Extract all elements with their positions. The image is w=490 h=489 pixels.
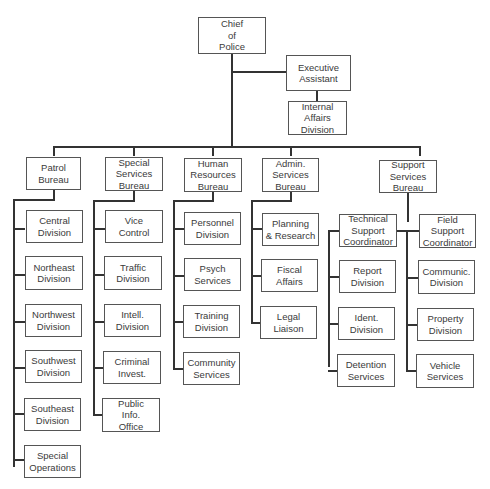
connector: [212, 146, 214, 156]
connector: [13, 321, 25, 323]
node-southeast-division: Southeast Division: [24, 398, 81, 431]
connector: [231, 71, 287, 73]
node-property-division: Property Division: [417, 308, 474, 341]
connector: [53, 146, 420, 148]
connector: [328, 230, 330, 367]
node-ident-division: Ident. Division: [338, 307, 395, 340]
connector: [406, 230, 408, 370]
node-patrol-bureau: Patrol Bureau: [26, 157, 81, 190]
node-central-division: Central Division: [26, 210, 83, 243]
node-vice-control: Vice Control: [105, 210, 163, 243]
connector: [173, 200, 214, 202]
connector: [231, 53, 233, 147]
connector: [53, 189, 55, 199]
node-special-operations: Special Operations: [24, 445, 81, 478]
connector: [396, 230, 420, 232]
connector: [133, 146, 135, 156]
connector: [13, 199, 15, 467]
connector: [419, 146, 421, 156]
node-planning-research: Planning & Research: [262, 213, 319, 246]
connector: [93, 200, 95, 415]
node-report-division: Report Division: [339, 260, 396, 293]
node-southwest-division: Southwest Division: [25, 350, 82, 383]
node-legal-liaison: Legal Liaison: [260, 306, 317, 339]
connector: [13, 228, 25, 230]
node-internal-affairs: Internal Affairs Division: [288, 101, 347, 135]
node-detention-services: Detention Services: [337, 354, 395, 387]
node-fiscal-affairs: Fiscal Affairs: [261, 259, 318, 292]
connector: [251, 200, 253, 323]
node-technical-support-coordinator: Technical Support Coordinator: [339, 214, 397, 247]
node-northeast-division: Northeast Division: [25, 256, 83, 290]
node-special-services-bureau: Special Services Bureau: [105, 157, 163, 191]
node-communic-division: Communic. Division: [418, 260, 475, 294]
connector: [133, 190, 135, 200]
node-field-support-coordinator: Field Support Coordinator: [419, 214, 476, 248]
connector: [406, 277, 418, 279]
node-personnel-division: Personnel Division: [184, 212, 241, 245]
node-human-resources-bureau: Human Resources Bureau: [184, 158, 242, 192]
connector: [251, 228, 262, 230]
connector: [173, 228, 184, 230]
node-chief-of-police: Chief of Police: [198, 17, 266, 54]
connector: [93, 228, 105, 230]
node-intell-division: Intell. Division: [104, 304, 161, 337]
node-admin-services-bureau: Admin. Services Bureau: [262, 158, 319, 192]
node-community-services: Community Services: [183, 352, 240, 385]
node-support-services-bureau: Support Services Bureau: [379, 160, 437, 193]
node-public-info-office: Public Info. Office: [102, 398, 160, 432]
connector: [173, 275, 184, 277]
node-executive-assistant: Executive Assistant: [286, 55, 351, 91]
node-traffic-division: Traffic Division: [104, 256, 162, 290]
connector: [251, 200, 292, 202]
connector: [13, 199, 55, 201]
node-northwest-division: Northwest Division: [25, 304, 82, 337]
node-training-division: Training Division: [183, 305, 240, 338]
connector: [13, 367, 25, 369]
connector: [173, 200, 175, 369]
connector: [93, 200, 135, 202]
connector: [290, 146, 292, 156]
node-vehicle-services: Vehicle Services: [416, 354, 474, 388]
node-psych-services: Psych Services: [184, 258, 241, 291]
connector: [53, 146, 55, 156]
connector: [407, 192, 409, 222]
connector: [13, 274, 25, 276]
node-criminal-invest: Criminal Invest.: [103, 351, 161, 384]
